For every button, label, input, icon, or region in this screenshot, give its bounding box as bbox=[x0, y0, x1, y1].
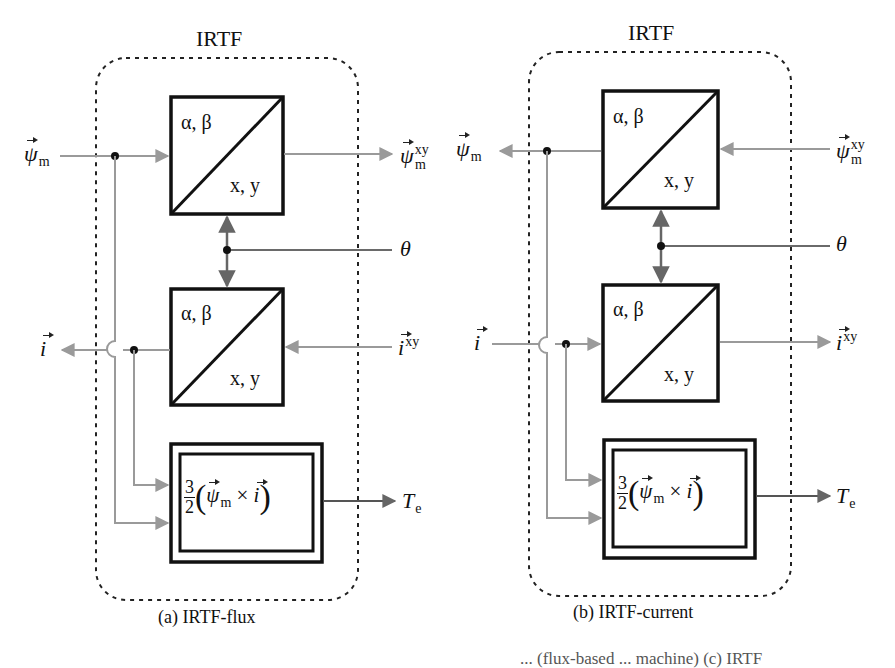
signal-psi-m-xy-sub: m bbox=[851, 153, 862, 167]
top-block-lower-label: x, y bbox=[664, 170, 694, 190]
bottom-block-lower-label: x, y bbox=[230, 368, 260, 388]
psi-m-branch bbox=[539, 151, 601, 518]
signal-i: i bbox=[40, 338, 46, 360]
torque-formula: 32(ψm × i) bbox=[617, 474, 704, 512]
torque-formula: 32(ψm × i) bbox=[184, 478, 271, 516]
i-branch bbox=[566, 344, 601, 480]
psi-m-branch bbox=[107, 156, 168, 523]
theta-junction-dot bbox=[223, 246, 231, 254]
panel-b-caption: (b) IRTF-current bbox=[573, 603, 693, 621]
bottom-block-upper-label: α, β bbox=[613, 299, 644, 319]
top-block-upper-label: α, β bbox=[613, 106, 644, 126]
top-block-lower-label: x, y bbox=[230, 175, 260, 195]
signal-psi-m-xy-sub: m bbox=[415, 158, 426, 172]
panel-a-header: IRTF bbox=[196, 28, 242, 50]
signal-te: Te bbox=[836, 485, 855, 511]
signal-theta: θ bbox=[836, 233, 847, 255]
signal-i-xy: ixy bbox=[398, 335, 419, 359]
i-branch bbox=[134, 350, 168, 485]
signal-theta: θ bbox=[400, 238, 411, 260]
signal-i-xy: ixy bbox=[836, 330, 857, 354]
signal-psi-m: ψm bbox=[456, 138, 482, 164]
bottom-block-upper-label: α, β bbox=[181, 303, 212, 323]
panel-b bbox=[492, 52, 830, 596]
figure-footer-fragment: ... (flux-based ... machine) (c) IRTF bbox=[520, 650, 762, 667]
signal-psi-m: ψm bbox=[24, 143, 50, 169]
panel-b-header: IRTF bbox=[628, 22, 674, 44]
top-block-upper-label: α, β bbox=[181, 112, 212, 132]
signal-te: Te bbox=[402, 490, 421, 516]
panel-a bbox=[60, 58, 395, 600]
theta-junction-dot bbox=[657, 242, 665, 250]
panel-a-caption: (a) IRTF-flux bbox=[158, 608, 255, 626]
signal-i: i bbox=[474, 332, 480, 354]
bottom-block-lower-label: x, y bbox=[664, 364, 694, 384]
